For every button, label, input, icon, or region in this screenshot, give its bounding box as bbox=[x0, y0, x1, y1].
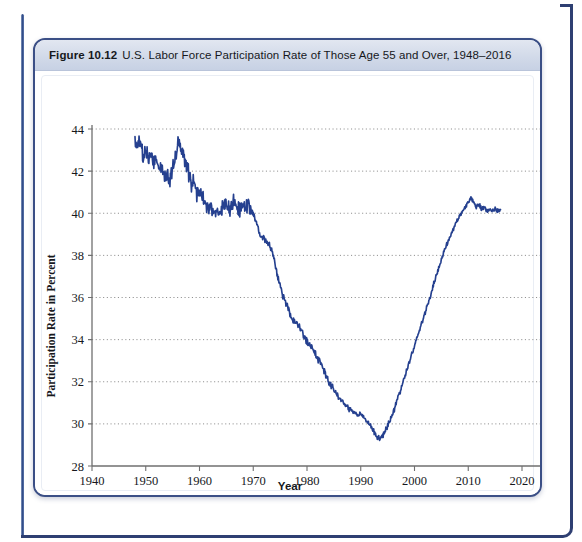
x-tick-label: 1960 bbox=[187, 474, 212, 488]
figure-card: Figure 10.12 U.S. Labor Force Participat… bbox=[33, 38, 542, 497]
figure-number: Figure 10.12 bbox=[49, 49, 117, 61]
figure-caption-bar: Figure 10.12 U.S. Labor Force Participat… bbox=[35, 40, 540, 71]
chart-svg: 283032343638404244 194019501960197019801… bbox=[35, 71, 540, 497]
x-tick-label: 1950 bbox=[133, 474, 158, 488]
chart-axes bbox=[92, 125, 540, 466]
figure-title: U.S. Labor Force Participation Rate of T… bbox=[122, 49, 511, 61]
x-tick-label: 1940 bbox=[80, 474, 105, 488]
chart-xticks: 194019501960197019801990200020102020 bbox=[80, 466, 535, 488]
chart-series-line bbox=[135, 136, 501, 440]
page-border-corner bbox=[560, 4, 573, 7]
x-tick-label: 2020 bbox=[510, 474, 535, 488]
y-tick-label: 36 bbox=[72, 291, 85, 305]
y-tick-label: 34 bbox=[72, 333, 85, 347]
series-path bbox=[135, 136, 501, 440]
x-tick-label: 2000 bbox=[402, 474, 427, 488]
y-tick-label: 44 bbox=[72, 123, 85, 137]
y-tick-label: 32 bbox=[72, 375, 85, 389]
y-tick-label: 28 bbox=[72, 460, 85, 474]
x-tick-label: 2010 bbox=[456, 474, 481, 488]
y-tick-label: 40 bbox=[72, 207, 85, 221]
y-tick-label: 38 bbox=[72, 249, 85, 263]
chart-yticks: 283032343638404244 bbox=[72, 123, 93, 474]
figure-body: 283032343638404244 194019501960197019801… bbox=[35, 71, 540, 497]
line-chart: 283032343638404244 194019501960197019801… bbox=[35, 71, 540, 497]
chart-gridlines bbox=[92, 129, 540, 424]
x-tick-label: 1990 bbox=[348, 474, 373, 488]
x-tick-label: 1970 bbox=[241, 474, 266, 488]
y-axis-label: Participation Rate in Percent bbox=[45, 254, 58, 397]
x-axis-label: Year bbox=[278, 480, 303, 492]
y-tick-label: 30 bbox=[72, 417, 85, 431]
y-tick-label: 42 bbox=[72, 165, 85, 179]
